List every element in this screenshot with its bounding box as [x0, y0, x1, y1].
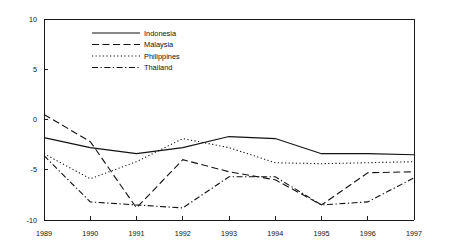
x-axis-tick-label: 1989: [36, 229, 52, 238]
x-axis-tick-label: 1991: [129, 229, 145, 238]
y-axis-tick-label: 10: [29, 15, 37, 24]
series-line-indonesia: [44, 137, 414, 155]
legend-label-malaysia: Malaysia: [144, 40, 174, 49]
series-line-malaysia: [44, 114, 414, 207]
chart-axes: [44, 19, 414, 220]
x-axis-tick-label: 1994: [267, 229, 283, 238]
x-axis-tick-label: 1993: [221, 229, 237, 238]
series-line-thailand: [44, 156, 414, 208]
legend-label-philippines: Philippines: [144, 52, 180, 61]
x-axis-tick-label: 1996: [360, 229, 376, 238]
y-axis-tick-label: 0: [33, 115, 37, 124]
y-axis-tick-label: -5: [31, 165, 37, 174]
y-axis-tick-label: -10: [27, 216, 37, 225]
x-axis-tick-label: 1997: [406, 229, 422, 238]
x-axis-tick-label: 1995: [314, 229, 330, 238]
series-line-philippines: [44, 139, 414, 179]
line-chart: 1050-5-101989199019911992199319941995199…: [0, 0, 460, 250]
x-axis-tick-label: 1992: [175, 229, 191, 238]
y-axis-tick-label: 5: [33, 65, 37, 74]
x-axis-tick-label: 1990: [82, 229, 98, 238]
legend-label-thailand: Thailand: [144, 63, 172, 72]
chart-container: 1050-5-101989199019911992199319941995199…: [0, 0, 460, 250]
legend-label-indonesia: Indonesia: [144, 29, 177, 38]
